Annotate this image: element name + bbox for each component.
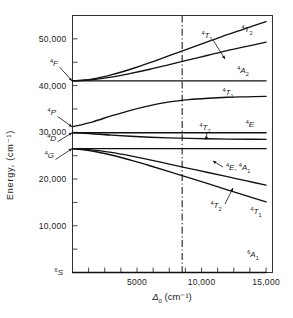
x-axis-title: Δ0 (cm⁻¹) bbox=[151, 291, 192, 304]
free-ion-4F: 4F bbox=[50, 58, 59, 68]
plot-root: 50,00040,00030,00020,00010,000500010,000… bbox=[5, 16, 280, 305]
curve-4T2-upper bbox=[73, 22, 267, 81]
label-4A2: 4A2 bbox=[237, 65, 248, 77]
curve-4T2-middle bbox=[73, 133, 267, 140]
y-tick-label-40000: 40,000 bbox=[39, 81, 67, 91]
free-ion-6S: 6S bbox=[55, 267, 64, 277]
free-ion-4P: 4P bbox=[48, 107, 57, 117]
free-ion-4P-arrowhead bbox=[69, 124, 72, 127]
x-tick-label-5000: 5000 bbox=[127, 277, 147, 287]
label-4T1-lower: 4T1 bbox=[250, 206, 261, 218]
free-ion-4D: 4D bbox=[47, 133, 56, 143]
label-4T2-lower: 4T2 bbox=[210, 200, 221, 212]
label-4E-middle: 4E bbox=[246, 119, 255, 129]
label-4T1-upper-leader bbox=[213, 40, 225, 59]
plot-svg: 50,00040,00030,00020,00010,000500010,000… bbox=[0, 0, 293, 318]
y-tick-label-20000: 20,000 bbox=[39, 174, 67, 184]
energy-level-figure: 50,00040,00030,00020,00010,000500010,000… bbox=[0, 0, 293, 318]
y-axis-title: Energy, (cm⁻¹) bbox=[5, 130, 15, 200]
label-4T1-upper: 4T1 bbox=[201, 30, 212, 42]
label-4E-4A1: 4E, 4A1 bbox=[226, 162, 250, 174]
curve-4T1-lower bbox=[73, 149, 267, 202]
curve-4T1-middle bbox=[73, 96, 267, 126]
free-ion-4G: 4G bbox=[45, 150, 54, 160]
x-tick-label-15000: 15,000 bbox=[252, 277, 280, 287]
y-tick-label-50000: 50,000 bbox=[39, 34, 67, 44]
label-6A1: 6A1 bbox=[247, 249, 258, 261]
y-tick-label-10000: 10,000 bbox=[39, 221, 67, 231]
curve-4T1-upper bbox=[73, 42, 267, 81]
x-tick-label-10000: 10,000 bbox=[188, 277, 216, 287]
